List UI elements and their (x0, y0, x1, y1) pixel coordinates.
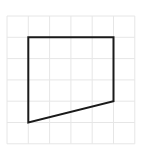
grid-lines (7, 16, 135, 144)
grid-diagram (0, 0, 143, 152)
